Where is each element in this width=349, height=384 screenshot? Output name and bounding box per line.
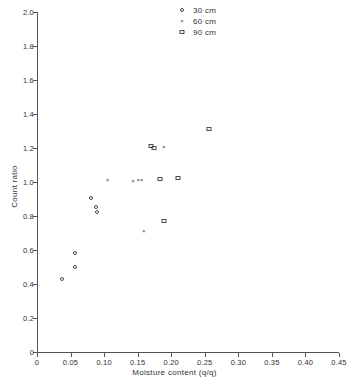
x-tick-label: 0.25: [197, 358, 212, 367]
y-tick-label: 1.0: [23, 178, 34, 187]
data-point-square: [206, 127, 211, 131]
x-tick: [238, 353, 239, 357]
y-tick-label: 0: [30, 348, 34, 357]
data-point-cross: ×: [135, 177, 141, 184]
x-tick-label: 0.15: [130, 358, 145, 367]
data-point-circle: [94, 205, 98, 209]
x-tick: [37, 353, 38, 357]
data-point-circle: [89, 196, 93, 200]
x-tick: [71, 353, 72, 357]
legend-marker-square-icon: [180, 30, 185, 34]
x-tick-label: 0.20: [164, 358, 179, 367]
legend-marker-circle-icon: [180, 8, 184, 12]
legend-marker-cross-icon: ×: [179, 18, 185, 25]
data-point-square: [161, 219, 166, 223]
data-point-square: [157, 177, 162, 181]
y-axis-line: [37, 12, 38, 353]
data-point-circle: [73, 251, 77, 255]
x-axis-title: Moisture content (q/q): [0, 368, 349, 377]
y-tick-label: 1.2: [23, 144, 34, 153]
scatter-plot-figure: 00.20.40.60.81.01.21.41.61.82.0 00.050.1…: [0, 0, 349, 384]
data-point-circle: [73, 265, 77, 269]
y-tick-label: 0.4: [23, 280, 34, 289]
y-tick-label: 1.6: [23, 76, 34, 85]
x-tick-label: 0.10: [96, 358, 111, 367]
plot-area: ××××××: [0, 0, 349, 384]
y-tick-label: 2.0: [23, 8, 34, 17]
x-tick-label: 0.40: [298, 358, 313, 367]
y-axis-title: Count ratio: [10, 137, 19, 237]
legend-label: 30 cm: [193, 5, 216, 16]
legend-label: 90 cm: [193, 27, 216, 38]
data-point-cross: ×: [139, 177, 145, 184]
data-point-cross: ×: [161, 144, 167, 151]
x-tick: [138, 353, 139, 357]
data-point-circle: [60, 277, 64, 281]
x-tick: [171, 353, 172, 357]
x-tick-label: 0.05: [63, 358, 78, 367]
data-point-cross: ×: [130, 178, 136, 185]
data-point-circle: [95, 210, 99, 214]
x-tick: [104, 353, 105, 357]
data-point-cross: ×: [104, 177, 110, 184]
x-tick: [339, 353, 340, 357]
x-tick-label: 0: [35, 358, 39, 367]
data-point-square: [149, 144, 154, 148]
x-tick-label: 0.35: [264, 358, 279, 367]
y-tick-label: 1.8: [23, 42, 34, 51]
data-point-square: [152, 146, 157, 150]
x-tick: [205, 353, 206, 357]
x-tick: [272, 353, 273, 357]
legend-label: 60 cm: [193, 16, 216, 27]
data-point-cross: ×: [141, 228, 147, 235]
y-tick-label: 0.6: [23, 246, 34, 255]
y-tick-label: 0.2: [23, 314, 34, 323]
x-axis-line: [37, 352, 339, 353]
x-tick-label: 0.30: [231, 358, 246, 367]
x-tick-label: 0.45: [331, 358, 346, 367]
y-tick-label: 0.8: [23, 212, 34, 221]
x-tick: [305, 353, 306, 357]
data-point-square: [175, 176, 180, 180]
y-tick-label: 1.4: [23, 110, 34, 119]
